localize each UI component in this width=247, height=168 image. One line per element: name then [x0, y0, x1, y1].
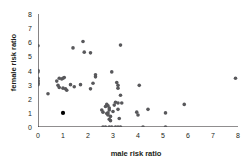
- y-tick-label: 7: [18, 25, 32, 32]
- y-tick-label: 4: [18, 67, 32, 74]
- data-point: [117, 117, 121, 121]
- y-tick-label: 3: [18, 81, 32, 88]
- y-tick-label: 1: [18, 109, 32, 116]
- data-point: [110, 125, 114, 127]
- data-point: [120, 101, 124, 105]
- data-point: [57, 86, 61, 90]
- data-point: [164, 125, 168, 127]
- x-tick-label: 6: [180, 132, 196, 139]
- data-point: [119, 43, 123, 47]
- data-point: [46, 92, 50, 96]
- x-axis-title: male risk ratio: [33, 149, 239, 158]
- data-point: [89, 51, 93, 55]
- data-point: [62, 76, 66, 80]
- x-tick-label: 0: [30, 132, 46, 139]
- data-point: [109, 119, 113, 123]
- data-point: [91, 81, 95, 85]
- data-point: [146, 108, 150, 112]
- x-tick-label: 7: [205, 132, 221, 139]
- data-point: [116, 86, 120, 90]
- y-axis-title: female risk ratio: [9, 11, 18, 115]
- data-point: [137, 84, 141, 88]
- data-point: [82, 50, 86, 54]
- data-point: [141, 125, 145, 127]
- data-point: [116, 101, 120, 105]
- data-point: [111, 110, 115, 114]
- data-point: [116, 108, 120, 112]
- data-point: [61, 111, 65, 115]
- x-tick-label: 1: [55, 132, 71, 139]
- data-point: [164, 111, 168, 115]
- x-tick-label: 8: [230, 132, 246, 139]
- x-tick-label: 4: [130, 132, 146, 139]
- plot-area: [38, 14, 238, 127]
- data-point: [94, 75, 98, 79]
- plot-svg: [38, 14, 238, 127]
- data-point: [104, 125, 108, 127]
- x-tick-label: 3: [105, 132, 121, 139]
- x-tick-label: 5: [155, 132, 171, 139]
- axis-lines: [38, 14, 238, 127]
- data-point: [38, 44, 40, 48]
- data-point: [110, 70, 114, 74]
- data-point: [234, 76, 238, 80]
- tick-marks: [38, 14, 238, 127]
- data-point: [101, 110, 105, 114]
- data-point: [72, 85, 76, 89]
- data-point: [71, 46, 75, 50]
- data-point: [136, 113, 140, 117]
- data-point: [89, 87, 93, 91]
- scatter-plot-figure: female risk ratio 012345678 012345678 ma…: [0, 0, 247, 168]
- data-point: [69, 83, 73, 87]
- data-point: [81, 40, 85, 44]
- data-point: [79, 83, 83, 87]
- data-points-group: [38, 40, 237, 127]
- y-tick-label: 8: [18, 11, 32, 18]
- y-tick-label: 5: [18, 53, 32, 60]
- x-tick-label: 2: [80, 132, 96, 139]
- y-tick-label: 0: [18, 124, 32, 131]
- data-point: [119, 93, 123, 97]
- data-point: [182, 103, 186, 107]
- data-point: [55, 79, 59, 83]
- y-tick-label: 6: [18, 39, 32, 46]
- data-point: [119, 125, 123, 127]
- y-tick-label: 2: [18, 95, 32, 102]
- data-point: [65, 88, 69, 92]
